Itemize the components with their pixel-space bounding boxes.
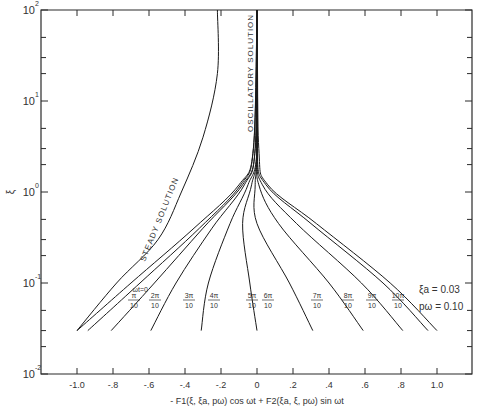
curve--t-6-10 [254, 10, 313, 331]
x-tick-label: 1.0 [431, 380, 444, 390]
curve--t-7-10 [257, 10, 364, 331]
y-tick-label: 10 [23, 277, 35, 289]
fraction-denominator: 10 [248, 302, 256, 309]
curve-label-fraction: 6π10 [262, 292, 274, 309]
p-omega-param: pω = 0.10 [419, 301, 464, 312]
curve-label-fraction: 8π10 [342, 292, 354, 309]
x-tick-label: .2 [289, 380, 297, 390]
steady-solution-label: STEADY SOLUTION [139, 176, 181, 263]
curve-label-fraction: 2π10 [149, 292, 161, 309]
fraction-numerator: 6π [264, 292, 273, 299]
curves [77, 10, 437, 331]
y-tick-label: 10 [23, 368, 35, 380]
y-tick-exponent: 1 [35, 91, 39, 98]
curve--t-2-10 [111, 10, 257, 331]
fraction-numerator: 9π [368, 292, 377, 299]
fraction-numerator: 4π [210, 292, 219, 299]
x-tick-label: 0 [254, 380, 259, 390]
x-tick-label: .8 [397, 380, 405, 390]
fraction-numerator: 3π [185, 292, 194, 299]
fraction-denominator: 10 [368, 302, 376, 309]
x-axis-label: - F1(ξ, ξa, pω) cos ωt + F2(ξa, ξ, pω) s… [170, 396, 344, 406]
x-tick-label: -.4 [180, 380, 191, 390]
curve-steady-solution [77, 10, 218, 331]
x-tick-label: -.2 [216, 380, 227, 390]
chart: -1.0-.8-.6-.4-.20.2.4.6.81.0 10210110010… [0, 0, 482, 411]
x-tick-label: -1.0 [69, 380, 85, 390]
curve--t-8-10 [257, 10, 403, 331]
y-tick-exponent: 0 [35, 182, 39, 189]
oscillatory-solution-label: OSCILLATORY SOLUTION [246, 14, 255, 132]
fraction-numerator: 5π [248, 292, 257, 299]
fraction-denominator: 10 [130, 302, 138, 309]
fraction-numerator: π [132, 292, 137, 299]
y-tick-label: 10 [23, 186, 35, 198]
curve-label-fraction: 10π10 [392, 292, 405, 309]
y-tick-exponent: 2 [35, 0, 39, 7]
fraction-denominator: 10 [151, 302, 159, 309]
curve--t-10 [88, 10, 257, 331]
curve--t-3-10 [151, 10, 257, 331]
y-axis-label: ξ [5, 189, 17, 194]
y-tick-label: 10 [23, 95, 35, 107]
curve-label-fraction: 3π10 [183, 292, 195, 309]
curve-label-fraction: 4π10 [208, 292, 220, 309]
y-tick-exponent: -2 [35, 364, 41, 371]
fraction-numerator: 8π [344, 292, 353, 299]
curve-label-fraction: 7π10 [311, 292, 323, 309]
x-tick-label: .4 [325, 380, 333, 390]
curve--t-9-10 [256, 10, 428, 331]
fraction-denominator: 10 [394, 302, 402, 309]
curve-labels: ωt=0π102π103π104π105π106π107π108π109π101… [128, 286, 404, 309]
fraction-denominator: 10 [210, 302, 218, 309]
curve-label-fraction: 9π10 [366, 292, 378, 309]
fraction-numerator: 7π [313, 292, 322, 299]
fraction-denominator: 10 [313, 302, 321, 309]
curve--t-0 [77, 10, 257, 331]
curve--t-10-10 [257, 10, 437, 331]
fraction-denominator: 10 [344, 302, 352, 309]
y-tick-label: 10 [23, 4, 35, 16]
x-tick-label: -.6 [144, 380, 155, 390]
fraction-denominator: 10 [264, 302, 272, 309]
y-tick-exponent: -1 [35, 273, 41, 280]
fraction-numerator: 2π [151, 292, 160, 299]
fraction-numerator: 10π [392, 292, 405, 299]
fraction-denominator: 10 [185, 302, 193, 309]
xi-a-param: ξa = 0.03 [419, 284, 460, 296]
x-tick-label: .6 [361, 380, 369, 390]
x-tick-label: -.8 [108, 380, 119, 390]
